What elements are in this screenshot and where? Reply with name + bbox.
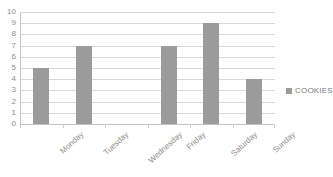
y-axis-tick-label: 4: [12, 75, 16, 83]
x-axis-labels: MondayTuesdayWednesdayFridaySaturdaySund…: [20, 126, 275, 176]
bar-slot: [190, 12, 233, 124]
bar: [246, 79, 262, 124]
y-axis-tick-label: 7: [12, 42, 16, 50]
bar: [203, 23, 219, 124]
chart-legend: COOKIES: [286, 86, 333, 95]
legend-label-cookies: COOKIES: [295, 86, 333, 95]
bar-slot: [105, 12, 148, 124]
y-axis-tick-label: 2: [12, 98, 16, 106]
y-axis-tick-label: 9: [12, 19, 16, 27]
y-axis-tick-label: 10: [7, 8, 16, 16]
x-axis-category-label: Tuesday: [102, 130, 131, 157]
bars: [20, 12, 275, 124]
y-axis-tick-label: 3: [12, 86, 16, 94]
y-axis-tick-label: 5: [12, 64, 16, 72]
bar: [76, 46, 92, 124]
bar-slot: [148, 12, 191, 124]
x-axis-category-label: Monday: [59, 130, 86, 156]
y-axis-tick-label: 8: [12, 30, 16, 38]
bar-slot: [63, 12, 106, 124]
x-axis-category-label: Wednesday: [147, 130, 184, 165]
x-axis-category-label: Sunday: [271, 130, 297, 155]
y-axis-tick-label: 0: [12, 120, 16, 128]
x-axis-category-label: Friday: [184, 130, 207, 152]
y-axis-tick-label: 6: [12, 53, 16, 61]
plot-area: [20, 12, 275, 124]
bar: [33, 68, 49, 124]
bar-slot: [233, 12, 276, 124]
legend-swatch-cookies: [286, 88, 292, 94]
x-axis-category-label: Saturday: [229, 130, 259, 158]
bar: [161, 46, 177, 124]
bar-slot: [20, 12, 63, 124]
y-axis-labels: 109876543210: [0, 12, 18, 124]
y-axis-tick-label: 1: [12, 109, 16, 117]
